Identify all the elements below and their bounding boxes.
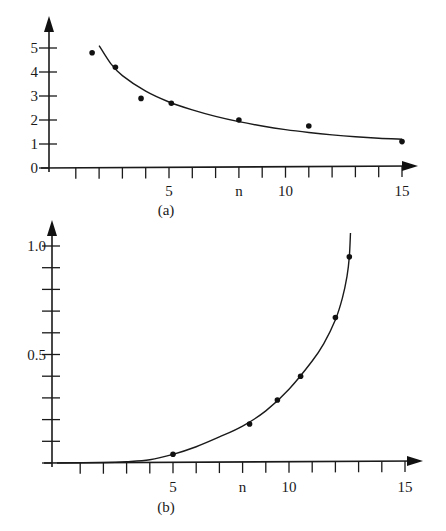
chart-canvas: 5n1015012345(a) 5n10150.51.0(b) — [0, 0, 446, 531]
y-axis-arrow-icon — [47, 220, 57, 236]
x-axis-arrow-icon — [407, 456, 423, 466]
x-axis — [41, 166, 410, 168]
data-point — [138, 96, 144, 102]
data-point — [399, 139, 405, 145]
data-point — [347, 254, 353, 260]
panel-caption: (b) — [157, 499, 175, 516]
x-tick-label: 15 — [395, 183, 410, 199]
y-tick-label: 5 — [31, 40, 39, 56]
data-point — [333, 315, 339, 321]
panel-b-increasing-chart: 5n10150.51.0(b) — [27, 220, 423, 516]
panel-caption: (a) — [158, 202, 175, 219]
data-point — [170, 452, 176, 458]
x-tick-label: n — [239, 479, 247, 495]
panel-a-decreasing-chart: 5n1015012345(a) — [31, 16, 419, 219]
x-tick-label: 10 — [282, 479, 297, 495]
y-tick-label: 2 — [31, 112, 39, 128]
data-point — [113, 64, 119, 70]
y-tick-label: 0.5 — [27, 347, 46, 363]
y-tick-label: 4 — [31, 64, 39, 80]
data-point — [298, 373, 304, 379]
fit-curve — [99, 46, 402, 140]
x-tick-label: 5 — [169, 479, 177, 495]
y-tick-label: 1.0 — [27, 238, 46, 254]
y-tick-label: 0 — [31, 160, 39, 176]
x-tick-label: 5 — [165, 183, 173, 199]
data-point — [306, 123, 312, 129]
data-point — [169, 100, 175, 106]
data-point — [236, 117, 242, 123]
y-tick-label: 1 — [31, 136, 39, 152]
figure: 5n1015012345(a) 5n10150.51.0(b) — [0, 0, 446, 531]
y-axis-arrow-icon — [44, 16, 54, 32]
y-tick-label: 3 — [31, 88, 39, 104]
data-point — [247, 421, 253, 427]
x-axis-arrow-icon — [402, 161, 418, 171]
fit-curve — [57, 233, 350, 463]
x-tick-label: n — [235, 183, 243, 199]
data-point — [275, 397, 281, 403]
x-tick-label: 10 — [278, 183, 293, 199]
x-tick-label: 15 — [398, 479, 413, 495]
data-point — [89, 50, 95, 56]
